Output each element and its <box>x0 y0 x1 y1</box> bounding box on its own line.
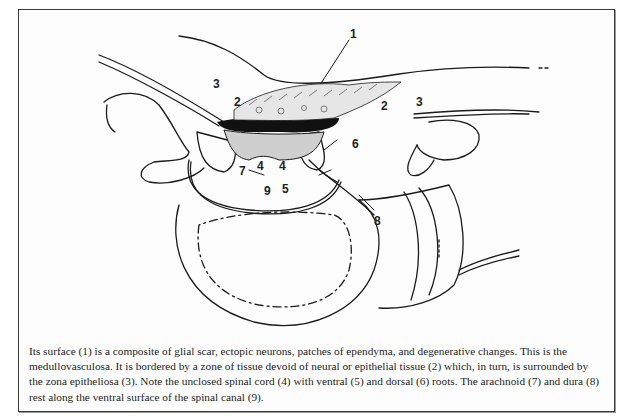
label-3-left: 3 <box>213 77 220 91</box>
label-4-left: 4 <box>257 159 264 173</box>
figure-caption: Its surface (1) is a composite of glial … <box>29 344 604 405</box>
label-8: 8 <box>374 214 381 228</box>
label-2-left: 2 <box>234 95 241 109</box>
label-9: 9 <box>264 184 271 198</box>
label-1: 1 <box>350 27 357 41</box>
label-4-right: 4 <box>279 159 286 173</box>
label-7: 7 <box>239 164 246 178</box>
label-6: 6 <box>352 137 359 151</box>
label-2-right: 2 <box>381 99 388 113</box>
illustration-svg: 1 2 2 3 3 4 4 5 6 7 8 9 <box>19 10 616 340</box>
figure-frame: 1 2 2 3 3 4 4 5 6 7 8 9 Its surface (1) … <box>18 9 615 412</box>
label-3-right: 3 <box>416 95 423 109</box>
spinal-anatomy-illustration: 1 2 2 3 3 4 4 5 6 7 8 9 <box>19 10 616 340</box>
label-5: 5 <box>282 182 289 196</box>
